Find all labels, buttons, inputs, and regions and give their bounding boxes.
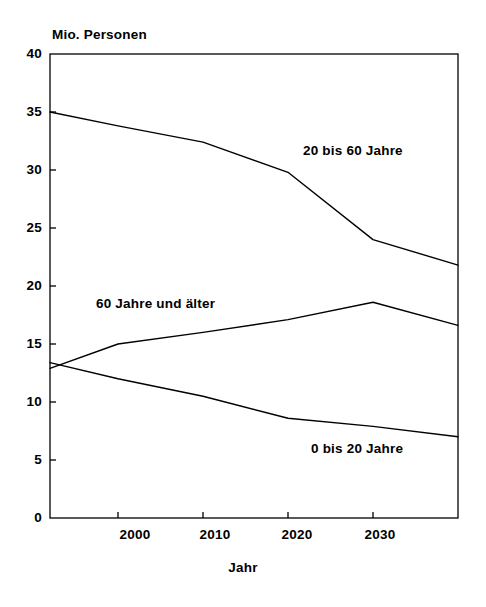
y-axis-tick-label-40: 40 — [4, 46, 42, 61]
series-lines — [50, 112, 458, 437]
y-axis-tick-label-30: 30 — [4, 162, 42, 177]
x-axis-tick-label-2010: 2010 — [185, 527, 245, 542]
y-axis-tick-label-0: 0 — [4, 510, 42, 525]
x-axis-title: Jahr — [0, 560, 486, 575]
y-axis-tick-label-25: 25 — [4, 220, 42, 235]
x-axis-tick-label-2020: 2020 — [267, 527, 327, 542]
y-axis-tick-label-10: 10 — [4, 394, 42, 409]
series-line-20-bis-60-jahre — [50, 112, 458, 265]
y-axis-tick-label-35: 35 — [4, 104, 42, 119]
series-label-60-jahre-und-aelter: 60 Jahre und älter — [96, 296, 215, 311]
x-axis-tick-label-2000: 2000 — [105, 527, 165, 542]
line-chart-figure: Mio. Personen 40 35 30 25 20 15 10 5 0 2… — [0, 0, 486, 607]
x-axis-tick-label-2030: 2030 — [350, 527, 410, 542]
plot-canvas — [0, 0, 486, 607]
series-label-20-bis-60-jahre: 20 bis 60 Jahre — [303, 143, 403, 158]
tick-marks — [50, 112, 373, 518]
y-axis-tick-label-15: 15 — [4, 336, 42, 351]
series-label-0-bis-20-jahre: 0 bis 20 Jahre — [311, 441, 403, 456]
y-axis-tick-label-5: 5 — [4, 452, 42, 467]
series-line-60-jahre-und-lter — [50, 302, 458, 368]
y-axis-tick-label-20: 20 — [4, 278, 42, 293]
y-axis-title: Mio. Personen — [52, 27, 147, 42]
series-line-0-bis-20-jahre — [50, 363, 458, 437]
